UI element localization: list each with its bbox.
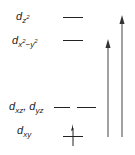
diagram-arrows [0, 0, 135, 155]
transition-arrow-dxy-to-dx2y2 [106, 39, 111, 137]
transition-arrow-dxy-to-dz2 [120, 15, 125, 137]
electron-spin-up-icon [71, 124, 73, 146]
